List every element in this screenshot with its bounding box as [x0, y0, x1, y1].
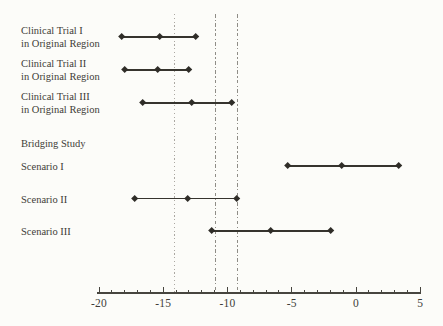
upper-bound-marker	[228, 99, 236, 107]
axis-major-tick	[227, 287, 228, 293]
lower-bound-marker	[284, 162, 292, 170]
axis-minor-tick	[317, 290, 318, 293]
axis-minor-tick	[278, 290, 279, 293]
axis-minor-tick	[188, 290, 189, 293]
axis-major-tick	[420, 287, 421, 293]
axis-tick-label: 0	[353, 297, 359, 309]
point-estimate-marker	[188, 99, 196, 107]
axis-minor-tick	[304, 290, 305, 293]
axis-minor-tick	[201, 290, 202, 293]
row-label: Clinical Trial IIin Original Region	[21, 57, 100, 83]
axis-major-tick	[356, 287, 357, 293]
row-label-line: Scenario II	[21, 192, 67, 205]
upper-bound-marker	[185, 66, 193, 74]
row-label: Scenario II	[21, 192, 67, 205]
axis-minor-tick	[407, 290, 408, 293]
x-axis-line	[97, 292, 421, 294]
axis-minor-tick	[176, 290, 177, 293]
axis-minor-tick	[266, 290, 267, 293]
row-label-line: Clinical Trial III	[21, 90, 100, 103]
axis-minor-tick	[111, 290, 112, 293]
axis-minor-tick	[343, 290, 344, 293]
lower-bound-marker	[121, 66, 129, 74]
axis-tick-label: -5	[287, 297, 297, 309]
reference-line-dashdot	[215, 14, 216, 292]
row-label-line: Scenario I	[21, 160, 64, 173]
row-label: Scenario I	[21, 160, 64, 173]
axis-major-tick	[291, 287, 292, 293]
row-label: Scenario III	[21, 225, 71, 238]
row-label-line: Clinical Trial II	[21, 57, 100, 70]
section-label: Bridging Study	[21, 137, 85, 150]
axis-tick-label: 5	[417, 297, 423, 309]
point-estimate-marker	[156, 33, 164, 41]
axis-minor-tick	[124, 290, 125, 293]
row-label-line: Clinical Trial I	[21, 24, 100, 37]
point-estimate-marker	[184, 195, 192, 203]
plot-area: -20-15-10-505Clinical Trial Iin Original…	[0, 0, 443, 326]
axis-major-tick	[99, 287, 100, 293]
axis-minor-tick	[368, 290, 369, 293]
axis-tick-label: -10	[219, 297, 235, 309]
axis-minor-tick	[150, 290, 151, 293]
row-label-line: in Original Region	[21, 103, 100, 116]
point-estimate-marker	[338, 162, 346, 170]
axis-minor-tick	[240, 290, 241, 293]
axis-major-tick	[163, 287, 164, 293]
forest-plot-figure: -20-15-10-505Clinical Trial Iin Original…	[0, 0, 443, 326]
lower-bound-marker	[118, 33, 126, 41]
row-label: Clinical Trial Iin Original Region	[21, 24, 100, 50]
row-label: Clinical Trial IIIin Original Region	[21, 90, 100, 116]
axis-tick-label: -15	[155, 297, 171, 309]
upper-bound-marker	[395, 162, 403, 170]
upper-bound-marker	[192, 33, 200, 41]
row-label-line: in Original Region	[21, 37, 100, 50]
upper-bound-marker	[326, 227, 334, 235]
lower-bound-marker	[139, 99, 147, 107]
axis-minor-tick	[137, 290, 138, 293]
axis-minor-tick	[381, 290, 382, 293]
axis-tick-label: -20	[91, 297, 107, 309]
axis-minor-tick	[253, 290, 254, 293]
point-estimate-marker	[267, 227, 275, 235]
reference-line-dashdot	[237, 14, 238, 292]
reference-line-dotted	[174, 14, 175, 292]
axis-minor-tick	[214, 290, 215, 293]
axis-minor-tick	[330, 290, 331, 293]
row-label-line: Scenario III	[21, 225, 71, 238]
axis-minor-tick	[394, 290, 395, 293]
row-label-line: Bridging Study	[21, 137, 85, 150]
lower-bound-marker	[131, 195, 139, 203]
upper-bound-marker	[233, 195, 241, 203]
point-estimate-marker	[154, 66, 162, 74]
row-label-line: in Original Region	[21, 70, 100, 83]
